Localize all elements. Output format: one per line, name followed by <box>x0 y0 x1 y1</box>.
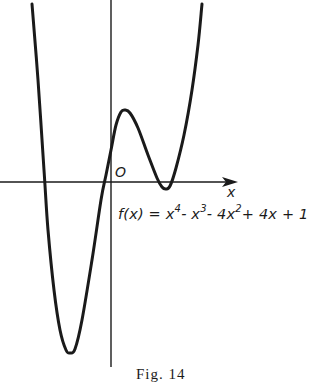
eq-part: + 4x + 1 <box>242 206 309 222</box>
eq-exponent: 2 <box>235 203 242 214</box>
eq-part: f(x) = x <box>118 206 175 222</box>
eq-exponent: 4 <box>175 203 182 214</box>
eq-part: - x <box>181 206 200 222</box>
function-equation: f(x) = x4- x3- 4x2+ 4x + 1 <box>118 204 309 222</box>
eq-part: - 4x <box>207 206 235 222</box>
eq-exponent: 3 <box>200 203 207 214</box>
figure-caption: Fig. 14 <box>136 366 186 383</box>
x-axis-label: x <box>227 184 235 200</box>
origin-label: O <box>115 164 126 180</box>
